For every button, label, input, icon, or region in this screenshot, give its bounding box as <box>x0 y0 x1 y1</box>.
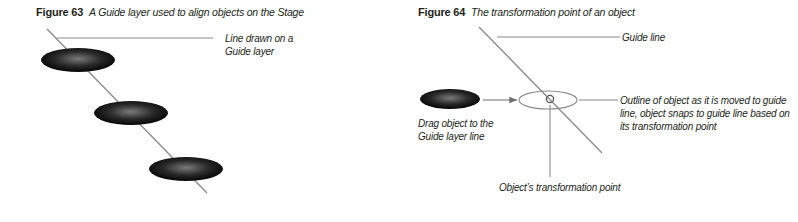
callout-line-2: Guide layer <box>225 45 293 58</box>
object-3 <box>149 157 223 181</box>
drag-label-line-2: Guide layer line <box>418 130 493 143</box>
figure-63-diagram <box>41 29 223 193</box>
figure-caption-text: The transformation point of an object <box>471 6 635 18</box>
figure-caption-text: A Guide layer used to align objects on t… <box>89 6 304 18</box>
figure-number: Figure 63 <box>36 6 83 18</box>
guide-diagonal-line <box>479 27 602 153</box>
figure-64-caption: Figure 64The transformation point of an … <box>418 6 635 18</box>
figure-64-diagram <box>420 27 620 177</box>
figure-63-caption: Figure 63A Guide layer used to align obj… <box>36 6 304 18</box>
outline-label-line-2: line, object snaps to guide line based o… <box>620 107 790 120</box>
object-outline <box>519 91 577 109</box>
drag-label-line-1: Drag object to the <box>418 117 493 130</box>
object-1 <box>41 48 115 72</box>
drag-object-label: Drag object to the Guide layer line <box>418 117 493 143</box>
guide-line-label: Guide line <box>622 31 665 44</box>
outline-label-line-1: Outline of object as it is moved to guid… <box>620 94 790 107</box>
guide-layer-callout: Line drawn on a Guide layer <box>225 32 293 58</box>
transformation-point-label: Object’s transformation point <box>499 181 620 194</box>
figure-number: Figure 64 <box>418 6 465 18</box>
drag-object <box>420 89 480 109</box>
outline-label: Outline of object as it is moved to guid… <box>620 94 790 133</box>
outline-label-line-3: its transformation point <box>620 120 790 133</box>
object-2 <box>94 101 168 125</box>
callout-line-1: Line drawn on a <box>225 32 293 45</box>
